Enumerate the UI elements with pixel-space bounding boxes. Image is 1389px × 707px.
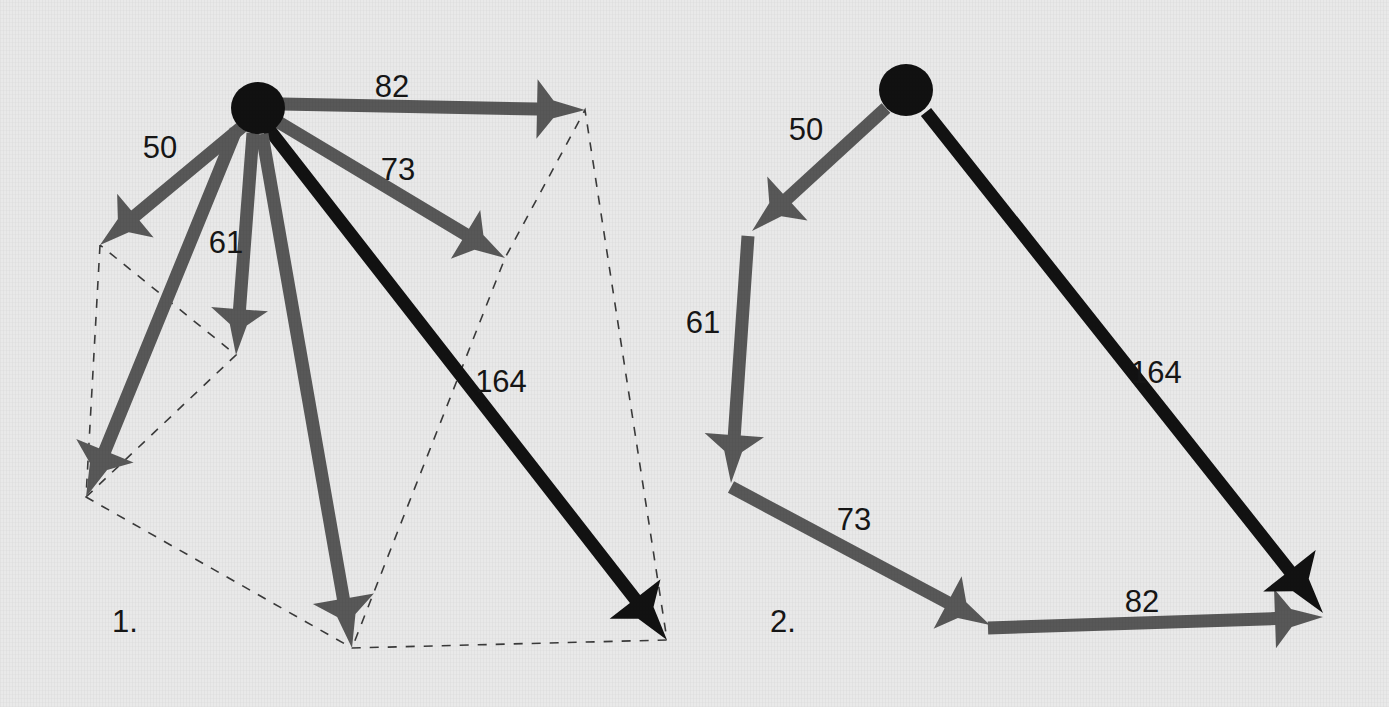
vector-73-label: 73 (837, 502, 871, 537)
vector-61-label: 61 (686, 305, 720, 340)
origin-node[interactable] (231, 82, 285, 134)
vector-164-label: 164 (1130, 355, 1182, 390)
vector-73-label: 73 (381, 152, 415, 187)
vector-82-label: 82 (375, 69, 409, 104)
origin-node[interactable] (879, 64, 933, 116)
vector-82-label: 82 (1125, 584, 1159, 619)
vector-50-label: 50 (143, 130, 177, 165)
vector-50-label: 50 (789, 112, 823, 147)
figure-canvas: 827316450611.506173821642. (0, 0, 1389, 707)
panel-1-caption: 1. (112, 604, 138, 639)
vector-164-label: 164 (475, 364, 527, 399)
vector-61-label: 61 (209, 225, 243, 260)
vector-diagram-svg: 827316450611.506173821642. (0, 0, 1389, 707)
canvas-background (0, 0, 1389, 707)
panel-2-caption: 2. (770, 604, 796, 639)
